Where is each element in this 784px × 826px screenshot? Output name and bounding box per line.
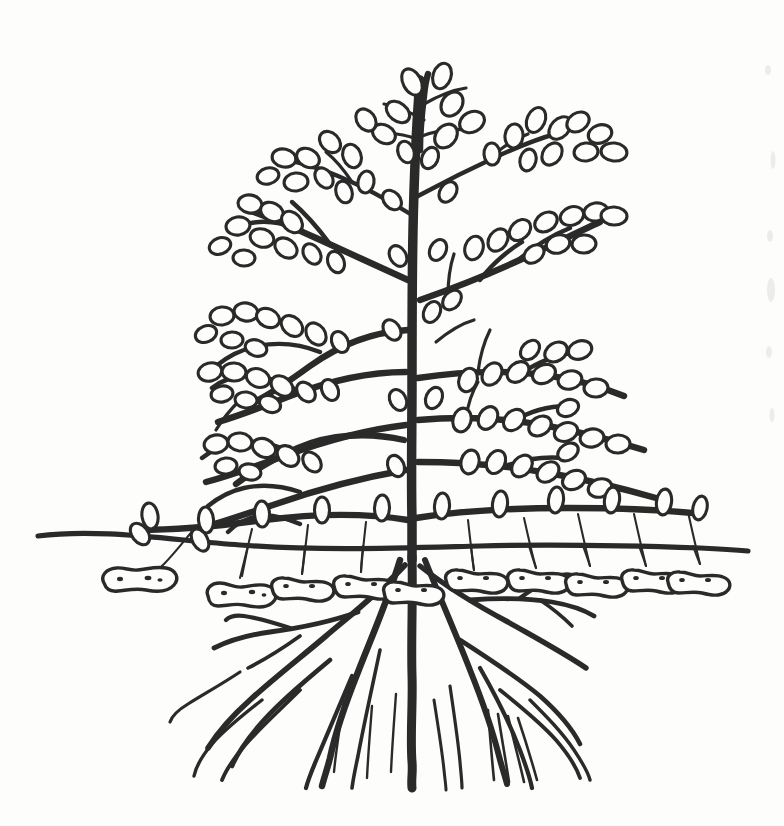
pod-group-10 — [668, 512, 730, 595]
edge-artifact-marks — [765, 65, 776, 422]
pod-group-6 — [446, 520, 508, 593]
pod-group-7 — [508, 518, 570, 593]
plant-figure: Peanut (groundnut) plant, whole-plant li… — [0, 0, 784, 826]
botanical-illustration-page: Peanut (groundnut) plant, whole-plant li… — [0, 0, 784, 826]
pod-group-8 — [566, 514, 628, 597]
